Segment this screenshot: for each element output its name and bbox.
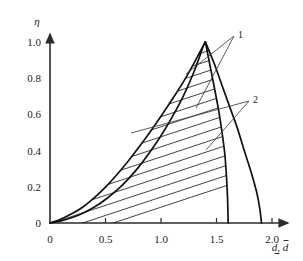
x-axis-title: d, d [272,241,289,254]
hatch-line [40,26,282,106]
curve-1-rising [50,42,205,223]
hatch-line [40,0,282,16]
y-tick-label: 1.0 [27,36,41,48]
data-curves [50,42,261,223]
hatch-line [40,0,282,76]
y-axis-title: η [34,15,39,27]
hatch-line [40,0,282,66]
hatch-line [40,16,282,96]
y-tick-label: 0.2 [27,181,41,193]
hatch-line [40,137,282,217]
x-tick-label: 1.5 [210,233,224,245]
curve-2-rising [50,42,205,223]
hatch-line [40,157,282,237]
x-tick-label: 0 [47,233,53,245]
hatch-line [40,47,282,127]
x-tick-label: 0.5 [99,233,113,245]
hatch-line [40,0,282,56]
hatch-line [40,127,282,207]
x-axis-tick-labels: 00.51.01.52.0 [47,233,279,245]
curve-1-falling [205,42,261,223]
y-tick-label: 0.8 [27,72,41,84]
hatch-line [40,0,282,6]
curve-label-2: 2 [253,94,258,105]
hatch-line [40,0,282,36]
eta-vs-d-chart: 00.51.01.52.0 00.20.40.60.81.0 η d, d 1 … [0,0,303,261]
curve-label-1: 1 [238,29,243,40]
hatch-line [40,0,282,46]
hatch-line [40,0,282,26]
y-tick-label: 0 [36,217,42,229]
hatch-line [40,147,282,227]
leader-2-a [131,101,249,133]
hatch-line [40,6,282,86]
y-axis-tick-labels: 00.20.40.60.81.0 [27,36,41,229]
x-axis-title-text: d, d [272,241,289,253]
hatch-line [40,107,282,187]
y-tick-label: 0.6 [27,108,41,120]
y-tick-label: 0.4 [27,145,41,157]
hatched-area [40,0,282,247]
x-tick-label: 1.0 [154,233,168,245]
